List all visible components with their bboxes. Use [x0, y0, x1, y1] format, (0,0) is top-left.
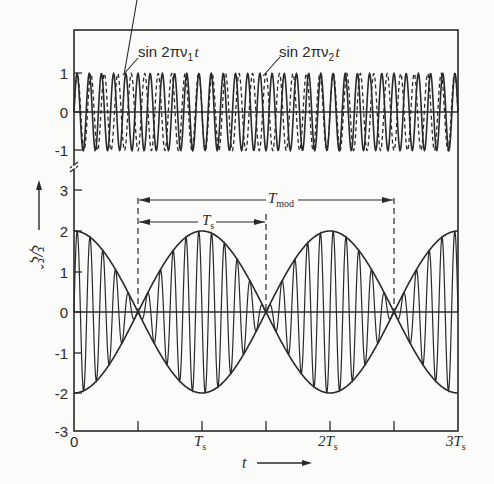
ytick-lower-3: 3 [48, 183, 68, 198]
arrow-up-icon [36, 180, 42, 190]
beat-plot [0, 0, 494, 484]
arrow-right-icon [254, 219, 265, 225]
x-axis-label: t [242, 455, 246, 471]
xtick-ts-sub: s [202, 441, 206, 452]
xtick-0: 0 [70, 434, 78, 449]
ts-dimension-sub: s [210, 220, 214, 231]
sin-nu1-text: sin 2πν [138, 43, 188, 60]
ytick-upper-1: 1 [48, 66, 68, 81]
arrow-right-icon [302, 460, 312, 466]
ytick-lower-0: 0 [48, 305, 68, 320]
sin-nu2-sub: 2 [329, 52, 335, 63]
xtick-3ts-text: 3T [446, 433, 462, 449]
ytick-upper-0: 0 [48, 105, 68, 120]
xtick-2ts-text: 2T [318, 433, 334, 449]
sin-nu1-t: t [194, 44, 198, 60]
sin-nu2-label: sin 2πν2 t [279, 44, 340, 63]
ytick-lower-1: 1 [48, 265, 68, 280]
ytick-lower-2: 2 [48, 224, 68, 239]
xtick-3ts-sub: s [462, 441, 466, 452]
arrow-right-icon [382, 197, 393, 203]
leader-line-nu1 [124, 0, 137, 75]
xtick-ts: Ts [194, 434, 206, 452]
ytick-lower-neg2: -2 [48, 386, 68, 401]
x-ticks [138, 421, 394, 431]
xtick-3ts: 3Ts [446, 434, 466, 452]
plot-frame [74, 30, 458, 431]
tmod-dimension-sub: mod [276, 198, 294, 209]
y-axis-label: ξ/ξ̂ [29, 245, 45, 263]
xtick-2ts-sub: s [334, 441, 338, 452]
lower-envelope-curve [74, 312, 458, 393]
sin-nu1-label: sin 2πν1 t [138, 44, 199, 63]
ytick-lower-neg3: -3 [48, 424, 68, 439]
tmod-dimension-label: Tmod [268, 191, 294, 209]
sin-nu1-sub: 1 [188, 52, 194, 63]
sin-nu2-t: t [335, 44, 339, 60]
sin-nu2-text: sin 2πν [279, 43, 329, 60]
xtick-2ts: 2Ts [318, 434, 338, 452]
arrow-left-icon [139, 219, 150, 225]
ytick-lower-neg1: -1 [48, 346, 68, 361]
ts-dimension-label: Ts [202, 213, 214, 231]
ytick-upper-neg1: -1 [48, 143, 68, 158]
arrow-left-icon [139, 197, 150, 203]
